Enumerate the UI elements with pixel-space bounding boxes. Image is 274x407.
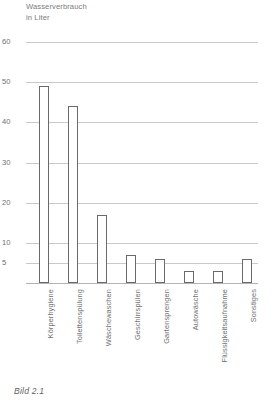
gridline [26, 122, 258, 123]
x-axis-category-label: Geschirrspülen [134, 289, 142, 340]
x-axis-category-label: Körperhygiene [47, 289, 55, 338]
chart-bar [155, 259, 165, 283]
y-axis-tick-label: 40 [2, 118, 22, 126]
chart-bar [184, 271, 194, 283]
y-axis-title: Wasserverbrauch in Liter [26, 2, 87, 23]
chart-bar [68, 106, 78, 283]
x-axis-category-label: Wäschewaschen [105, 289, 113, 346]
y-axis-tick-label: 30 [2, 159, 22, 167]
chart-bar [126, 255, 136, 283]
gridline [26, 263, 258, 264]
gridline [26, 42, 258, 43]
gridline [26, 163, 258, 164]
x-axis-category-label: Flüssigkeitsaufnahme [221, 289, 229, 362]
chart-bar [242, 259, 252, 283]
x-axis-category-label: Toilettenspülung [76, 289, 84, 344]
x-axis-category-label: Gartensprengen [163, 289, 171, 344]
chart-plot-area: 6050403020105 [26, 42, 258, 283]
x-axis-category-label: Sonstiges [250, 289, 258, 322]
y-axis-tick-label: 20 [2, 199, 22, 207]
gridline [26, 82, 258, 83]
chart-bar [39, 86, 49, 283]
figure-caption: Bild 2.1 [14, 386, 44, 396]
y-axis-tick-label: 10 [2, 239, 22, 247]
y-axis-tick-label: 50 [2, 78, 22, 86]
chart-bar [213, 271, 223, 283]
gridline [26, 243, 258, 244]
gridline [26, 203, 258, 204]
y-axis-tick-label: 60 [2, 38, 22, 46]
y-axis-tick-label: 5 [2, 259, 22, 267]
x-axis-category-labels: KörperhygieneToilettenspülungWäschewasch… [26, 283, 258, 373]
x-axis-category-label: Autowäsche [192, 289, 200, 330]
chart-bar [97, 215, 107, 283]
